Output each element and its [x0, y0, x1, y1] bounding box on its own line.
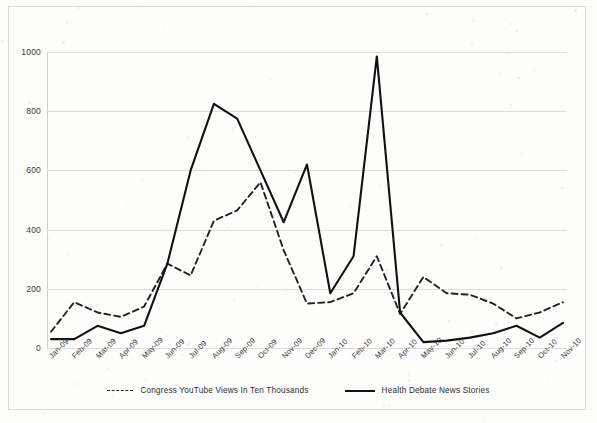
legend-label-congress-youtube-views: Congress YouTube Views In Ten Thousands: [140, 386, 308, 395]
chart-root: 02004006008001000 Jan-09Feb-09Mar-09Apr-…: [0, 0, 597, 423]
scan-speck: [162, 231, 164, 233]
plot-area: 02004006008001000: [47, 52, 567, 348]
scan-speck: [471, 42, 473, 44]
scan-speck: [518, 77, 520, 79]
scan-speck: [294, 172, 296, 174]
scan-speck: [547, 379, 548, 380]
scan-speck: [520, 346, 522, 348]
scan-speck: [42, 412, 45, 415]
scan-speck: [71, 411, 72, 412]
scan-speck: [408, 379, 411, 382]
scan-speck: [521, 151, 523, 153]
scan-speck: [107, 368, 109, 370]
y-tick-label-400: 400: [26, 225, 41, 235]
legend-item-health-debate-news-stories: Health Debate News Stories: [345, 386, 490, 395]
scan-speck: [381, 300, 383, 302]
scan-speck: [1, 40, 3, 42]
chart-legend: Congress YouTube Views In Ten Thousands …: [0, 386, 597, 395]
legend-item-congress-youtube-views: Congress YouTube Views In Ten Thousands: [107, 386, 308, 395]
scan-speck: [286, 290, 289, 293]
scan-speck: [211, 396, 214, 399]
y-tick-label-0: 0: [36, 343, 41, 353]
scan-speck: [227, 227, 229, 229]
y-tick-label-800: 800: [26, 106, 41, 116]
scan-speck: [510, 23, 512, 25]
scan-speck: [379, 185, 380, 186]
scan-speck: [186, 136, 188, 138]
series-line-health-debate-news-stories: [51, 56, 563, 342]
scan-speck: [533, 69, 535, 71]
scan-speck: [109, 18, 110, 19]
y-tick-label-200: 200: [26, 284, 41, 294]
scan-speck: [495, 322, 497, 324]
legend-label-health-debate-news-stories: Health Debate News Stories: [382, 386, 490, 395]
scan-speck: [66, 22, 68, 24]
scan-speck: [62, 41, 64, 43]
scan-speck: [103, 115, 104, 116]
scan-speck: [78, 7, 80, 9]
solid-line-swatch: [345, 390, 375, 392]
scan-speck: [426, 13, 428, 15]
series-lines: [47, 52, 567, 348]
scan-speck: [574, 9, 577, 12]
scan-speck: [561, 187, 564, 190]
scan-speck: [233, 298, 236, 301]
scan-speck: [401, 288, 402, 289]
scan-speck: [448, 320, 451, 323]
dashed-line-swatch: [107, 390, 133, 391]
scan-speck: [68, 254, 69, 255]
y-tick-label-600: 600: [26, 165, 41, 175]
scan-speck: [396, 45, 397, 46]
y-tick-label-1000: 1000: [21, 47, 41, 57]
scan-speck: [472, 19, 475, 22]
series-line-congress-youtube-views: [51, 182, 563, 331]
scan-speck: [386, 269, 388, 271]
scan-speck: [126, 204, 127, 205]
scan-speck: [484, 417, 486, 419]
